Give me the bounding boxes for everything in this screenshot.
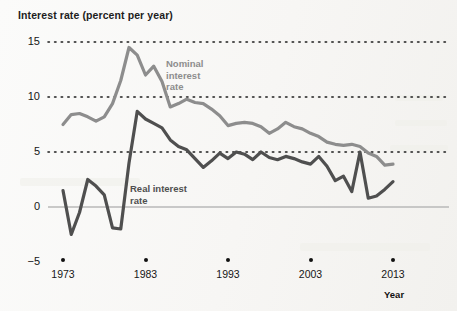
real-interest-rate-line	[63, 111, 393, 234]
y-tick-label-5: 5	[14, 145, 40, 157]
x-axis-title: Year	[384, 289, 404, 300]
plot-area	[0, 0, 457, 311]
x-tick-dot-2003	[309, 258, 313, 262]
chart-figure: Interest rate (percent per year) 151050−…	[0, 0, 457, 311]
x-tick-dot-1973	[61, 258, 65, 262]
x-tick-label-1973: 1973	[43, 268, 83, 280]
nominal-interest-rate-line	[63, 48, 393, 166]
x-tick-dot-1983	[144, 258, 148, 262]
x-tick-label-1983: 1983	[126, 268, 166, 280]
y-tick-label-0: 0	[14, 200, 40, 212]
real-series-annotation: Real interest rate	[130, 183, 187, 206]
y-tick-label-15: 15	[14, 35, 40, 47]
gridlines	[48, 42, 449, 207]
x-tick-label-1993: 1993	[208, 268, 248, 280]
y-tick-label-10: 10	[14, 90, 40, 102]
y-tick-label--5: −5	[14, 255, 40, 267]
x-tick-dot-2013	[391, 258, 395, 262]
x-tick-dot-1993	[226, 258, 230, 262]
nominal-series-annotation: Nominal interest rate	[166, 58, 203, 93]
x-tick-label-2003: 2003	[291, 268, 331, 280]
x-tick-label-2013: 2013	[373, 268, 413, 280]
